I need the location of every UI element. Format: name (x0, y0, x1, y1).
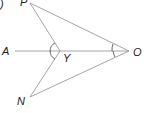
label-a: A (1, 45, 9, 57)
partial-label: ) (0, 0, 4, 10)
label-n: N (17, 95, 25, 107)
angle-arc-o-lower (113, 51, 115, 57)
label-p: P (20, 0, 28, 8)
label-y: Y (63, 52, 71, 64)
angle-arc-o-upper (112, 44, 113, 51)
geometry-diagram: ) P A Y O N (0, 0, 144, 113)
label-o: O (133, 46, 142, 58)
